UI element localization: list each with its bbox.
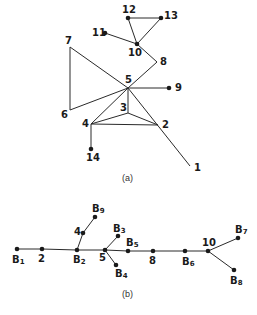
a-label-10: 10 [128, 47, 142, 58]
a-label-6: 6 [61, 109, 68, 120]
b-node-4 [81, 231, 86, 236]
a-node-9 [167, 86, 172, 91]
b-node-B8 [232, 268, 237, 273]
a-edge-3-2 [128, 113, 158, 125]
a-node-13 [159, 16, 164, 21]
a-label-4: 4 [82, 118, 89, 129]
b-label-B6: B6 [182, 256, 195, 268]
a-label-1: 1 [194, 162, 201, 173]
b-node-B9 [93, 215, 98, 220]
b-node-B7 [236, 236, 241, 241]
b-label-10: 10 [202, 237, 216, 248]
b-node-B4 [114, 263, 119, 268]
cropped-figure-caption [0, 306, 257, 315]
caption-b: (b) [122, 289, 133, 299]
a-label-7: 7 [65, 35, 72, 46]
b-label-B7: B7 [235, 224, 248, 236]
a-node-10 [135, 42, 140, 47]
b-node-B2 [75, 248, 80, 253]
a-edge-10-13 [137, 18, 161, 44]
a-edge-10-11 [105, 33, 137, 44]
b-label-B5: B5 [126, 237, 139, 249]
a-label-13: 13 [164, 10, 178, 21]
network-diagram: 1234567891011121314 (a) B12B24B95B3B4B58… [0, 0, 257, 315]
a-label-9: 9 [175, 82, 182, 93]
b-label-2: 2 [38, 253, 45, 264]
b-node-B1 [15, 247, 20, 252]
a-node-12 [126, 16, 131, 21]
b-node-B6 [183, 249, 188, 254]
b-label-B1: B1 [12, 254, 25, 266]
a-edge-4-2 [91, 124, 158, 125]
b-node-B3 [116, 234, 121, 239]
a-edge-10-12 [128, 18, 137, 44]
b-label-B2: B2 [73, 254, 86, 266]
b-edge-5-B4 [105, 250, 116, 265]
b-node-8 [151, 249, 156, 254]
a-edge-7-5 [70, 47, 128, 88]
b-label-B9: B9 [92, 203, 105, 215]
b-edge-4-B9 [83, 217, 95, 233]
b-node-B5 [126, 249, 131, 254]
a-label-2: 2 [162, 119, 169, 130]
a-label-11: 11 [92, 27, 106, 38]
a-label-8: 8 [160, 56, 167, 67]
b-label-8: 8 [149, 255, 156, 266]
a-label-12: 12 [122, 4, 136, 15]
a-edge-5-1 [128, 88, 190, 166]
b-label-B3: B3 [113, 223, 126, 235]
a-edge-5-8 [128, 62, 157, 88]
b-node-10 [206, 249, 211, 254]
a-label-5: 5 [125, 74, 132, 85]
tree-b-nodes: B12B24B95B3B4B58B610B7B8 [12, 203, 248, 287]
b-edge-2-B2 [42, 249, 77, 250]
b-label-B4: B4 [115, 268, 128, 280]
caption-a: (a) [122, 173, 133, 183]
b-label-5: 5 [99, 252, 106, 263]
b-edge-10-B8 [208, 251, 234, 270]
graph-a-edges [70, 18, 190, 166]
a-node-14 [89, 147, 94, 152]
b-edge-5-B3 [105, 236, 118, 250]
a-label-14: 14 [86, 152, 100, 163]
a-label-3: 3 [120, 102, 127, 113]
b-label-4: 4 [74, 226, 81, 237]
b-node-2 [40, 247, 45, 252]
b-label-B8: B8 [230, 275, 243, 287]
b-edge-5-B5 [105, 250, 128, 251]
